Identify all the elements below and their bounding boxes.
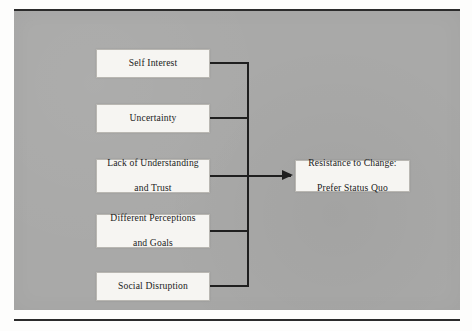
node-different-perceptions-and-goals-label: Different Perceptions and Goals xyxy=(102,212,203,249)
node-resistance-to-change[interactable]: Resistance to Change: Prefer Status Quo xyxy=(295,160,410,192)
connector-stub-lack-of-understanding xyxy=(210,175,249,177)
node-different-perceptions-and-goals[interactable]: Different Perceptions and Goals xyxy=(96,214,210,248)
node-line-2: and Goals xyxy=(106,237,199,249)
node-lack-of-understanding-and-trust[interactable]: Lack of Understanding and Trust xyxy=(96,159,210,193)
figure-container: Self Interest Uncertainty Lack of Unders… xyxy=(0,0,472,331)
connector-stub-different-perceptions xyxy=(210,230,249,232)
node-lack-of-understanding-and-trust-label: Lack of Understanding and Trust xyxy=(99,157,207,194)
node-social-disruption-label: Social Disruption xyxy=(114,280,192,292)
node-self-interest-label: Self Interest xyxy=(125,57,182,69)
node-resistance-to-change-label: Resistance to Change: Prefer Status Quo xyxy=(300,157,404,194)
node-line-2: Prefer Status Quo xyxy=(304,182,400,194)
node-line-1: Lack of Understanding xyxy=(103,157,203,169)
diagram-panel: Self Interest Uncertainty Lack of Unders… xyxy=(14,11,460,310)
connector-stub-social-disruption xyxy=(210,285,249,287)
node-uncertainty[interactable]: Uncertainty xyxy=(96,104,210,133)
connector-stub-uncertainty xyxy=(210,117,249,119)
node-self-interest[interactable]: Self Interest xyxy=(96,49,210,78)
node-line-1: Different Perceptions xyxy=(106,212,199,224)
node-line-1: Resistance to Change: xyxy=(304,157,400,169)
node-social-disruption[interactable]: Social Disruption xyxy=(96,272,210,301)
node-line-2: and Trust xyxy=(103,182,203,194)
connector-stub-self-interest xyxy=(210,62,249,64)
node-uncertainty-label: Uncertainty xyxy=(126,112,181,124)
arrow-head-icon xyxy=(282,170,293,180)
figure-bottom-rule xyxy=(14,319,460,321)
